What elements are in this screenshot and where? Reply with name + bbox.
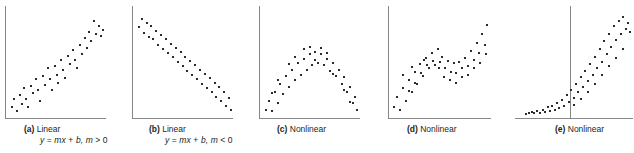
- data-point: [146, 22, 148, 24]
- data-point: [57, 82, 59, 84]
- data-point: [282, 93, 284, 95]
- data-point: [143, 32, 145, 34]
- data-point: [414, 71, 416, 73]
- data-point: [584, 70, 586, 72]
- data-point: [206, 87, 208, 89]
- data-point: [306, 69, 308, 71]
- scatter-panel-e: (e) Nonlinear: [515, 0, 634, 153]
- data-point: [172, 56, 174, 58]
- data-point: [573, 104, 575, 106]
- data-point: [81, 53, 83, 55]
- data-point: [582, 86, 584, 88]
- data-point: [56, 74, 58, 76]
- data-point: [288, 86, 290, 88]
- data-point: [186, 70, 188, 72]
- data-point: [449, 79, 451, 81]
- plot-area-e: [515, 0, 634, 119]
- data-point: [39, 100, 41, 102]
- data-point: [343, 76, 345, 78]
- x-axis-line-a: [5, 118, 106, 119]
- data-point: [533, 112, 535, 114]
- x-axis-line-e: [515, 118, 633, 119]
- data-point: [408, 90, 410, 92]
- caption-letter-b: (b): [149, 124, 160, 134]
- data-point: [444, 67, 446, 69]
- data-point: [64, 77, 66, 79]
- data-point: [447, 60, 449, 62]
- data-point: [93, 20, 95, 22]
- data-point: [618, 20, 620, 22]
- y-axis-line-a: [5, 6, 6, 118]
- data-point: [414, 82, 416, 84]
- caption-label-b: Linear: [160, 124, 186, 134]
- data-point: [323, 64, 325, 66]
- data-point: [455, 72, 457, 74]
- data-point: [285, 75, 287, 77]
- data-point: [201, 83, 203, 85]
- data-point: [573, 97, 575, 99]
- data-point: [184, 56, 186, 58]
- data-point: [461, 76, 463, 78]
- data-point: [577, 91, 579, 93]
- data-point: [204, 73, 206, 75]
- data-point: [326, 58, 328, 60]
- data-point: [341, 83, 343, 85]
- data-point: [76, 67, 78, 69]
- data-point: [220, 100, 222, 102]
- data-point: [25, 98, 27, 100]
- data-point: [479, 62, 481, 64]
- data-point: [67, 55, 69, 57]
- data-point: [566, 94, 568, 96]
- data-point: [51, 89, 53, 91]
- data-point: [587, 91, 589, 93]
- data-point: [399, 109, 401, 111]
- data-point: [396, 96, 398, 98]
- data-point: [95, 33, 97, 35]
- data-point: [554, 109, 556, 111]
- caption-formula-a: y = mx + b, m > 0: [24, 135, 108, 146]
- data-point: [580, 98, 582, 100]
- data-point: [279, 83, 281, 85]
- caption-line-primary-c: (c) Nonlinear: [277, 124, 326, 135]
- data-point: [309, 53, 311, 55]
- data-point: [335, 75, 337, 77]
- data-point: [438, 67, 440, 69]
- data-point: [194, 64, 196, 66]
- data-point: [225, 105, 227, 107]
- data-point: [416, 83, 418, 85]
- caption-line-primary-b: (b) Linear: [149, 124, 233, 135]
- data-point: [329, 70, 331, 72]
- scatter-panel-a: (a) Lineary = mx + b, m > 0: [0, 0, 110, 153]
- data-point: [189, 60, 191, 62]
- data-point: [467, 74, 469, 76]
- data-point: [464, 57, 466, 59]
- data-point: [423, 59, 425, 61]
- data-point: [563, 105, 565, 107]
- data-point: [349, 86, 351, 88]
- data-point: [167, 52, 169, 54]
- data-point: [162, 48, 164, 50]
- data-point: [402, 87, 404, 89]
- data-point: [180, 51, 182, 53]
- data-point: [326, 52, 328, 54]
- data-point: [294, 79, 296, 81]
- data-point: [437, 48, 439, 50]
- data-point: [615, 57, 617, 59]
- data-point: [277, 79, 279, 81]
- data-point: [551, 105, 553, 107]
- data-point: [601, 74, 603, 76]
- data-point: [44, 84, 46, 86]
- data-point: [620, 33, 622, 35]
- data-point: [54, 65, 56, 67]
- data-point: [300, 74, 302, 76]
- data-point: [277, 102, 279, 104]
- data-point: [332, 73, 334, 75]
- scatter-panel-d: (d) Nonlinear: [383, 0, 495, 153]
- data-point: [314, 51, 316, 53]
- data-point: [79, 44, 81, 46]
- caption-label-e: Nonlinear: [565, 124, 604, 134]
- data-point: [175, 47, 177, 49]
- data-point: [547, 106, 549, 108]
- data-point: [214, 82, 216, 84]
- data-point: [303, 48, 305, 50]
